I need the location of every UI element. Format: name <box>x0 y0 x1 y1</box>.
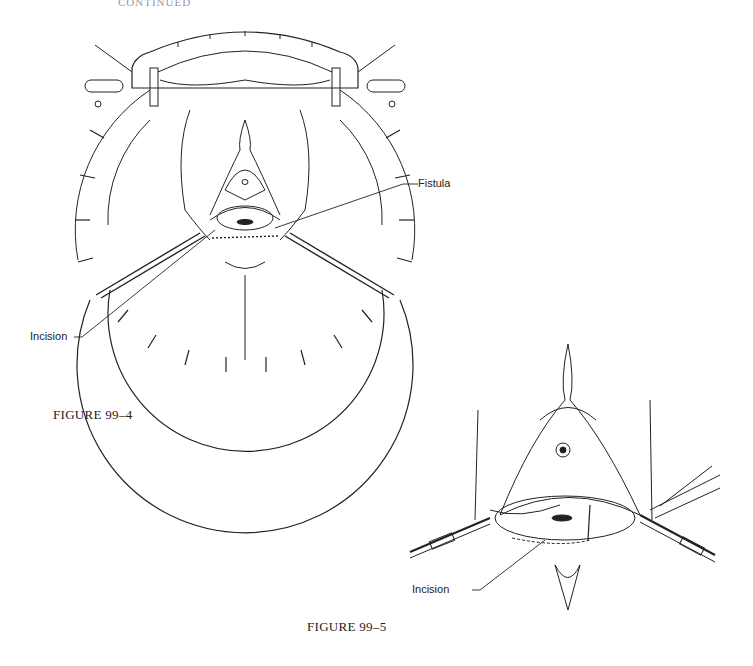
label-incision-fig-99-4: Incision <box>30 330 67 342</box>
caption-figure-99-5: FIGURE 99–5 <box>307 619 387 635</box>
leader-lines <box>74 184 418 337</box>
caption-figure-99-4: FIGURE 99–4 <box>53 407 133 423</box>
anatomy-outline <box>160 80 330 360</box>
figure-99-5-illustration <box>410 344 720 610</box>
retractor-top-bar <box>85 31 405 107</box>
figure-99-4-illustration <box>0 0 753 666</box>
label-incision-fig-99-5: Incision <box>412 583 449 595</box>
label-fistula: Fistula <box>418 177 450 189</box>
